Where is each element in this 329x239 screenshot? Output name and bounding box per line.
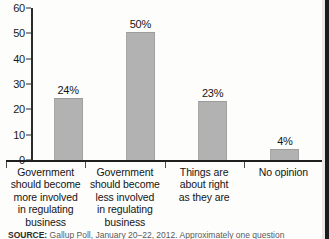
category-label: No opinion — [244, 166, 323, 228]
x-axis-category-labels: Governmentshould becomemore involvedin r… — [6, 166, 323, 228]
category-label-line: should become — [87, 178, 162, 190]
source-label: SOURCE: — [8, 231, 47, 239]
category-label-line: about right — [167, 178, 242, 190]
category-label-line: business — [87, 216, 162, 228]
bar-value-label: 24% — [57, 84, 78, 96]
plot-area: 605040302010024%50%23%4% — [31, 8, 320, 160]
category-label: Things areabout rightas they are — [165, 166, 244, 228]
y-axis-tick-mark — [26, 134, 31, 135]
y-axis-tick-mark — [26, 8, 31, 9]
bar: 23% — [198, 101, 227, 160]
y-axis-tick-mark — [26, 160, 31, 161]
bar: 4% — [270, 149, 299, 160]
category-label-line: Government — [8, 166, 83, 178]
category-label-line: Things are — [167, 166, 242, 178]
category-label-line: more involved — [8, 191, 83, 203]
category-label-line: as they are — [167, 191, 242, 203]
category-label: Governmentshould becomemore involvedin r… — [6, 166, 85, 228]
category-label-line: No opinion — [246, 166, 321, 178]
bar: 50% — [126, 32, 155, 160]
bar: 24% — [54, 98, 83, 160]
category-label-line: in regulating — [8, 203, 83, 215]
bar-value-label: 4% — [277, 135, 293, 147]
category-label-line: business — [8, 216, 83, 228]
bar-chart-figure: 605040302010024%50%23%4% Governmentshoul… — [0, 0, 329, 239]
source-text: Gallup Poll, January 20–22, 2012. Approx… — [50, 231, 285, 239]
category-label-line: in regulating — [87, 203, 162, 215]
category-label-line: should become — [8, 178, 83, 190]
page-edge-border — [325, 0, 329, 239]
y-axis-tick-mark — [26, 33, 31, 34]
y-axis-tick-mark — [26, 84, 31, 85]
bar-value-label: 50% — [130, 18, 151, 30]
y-axis-tick-mark — [26, 109, 31, 110]
category-label-line: less involved — [87, 191, 162, 203]
bar-value-label: 23% — [202, 87, 223, 99]
y-axis-tick-mark — [26, 58, 31, 59]
category-label-line: Government — [87, 166, 162, 178]
source-note: SOURCE: Gallup Poll, January 20–22, 2012… — [8, 231, 308, 239]
category-label: Governmentshould becomeless involvedin r… — [85, 166, 164, 228]
